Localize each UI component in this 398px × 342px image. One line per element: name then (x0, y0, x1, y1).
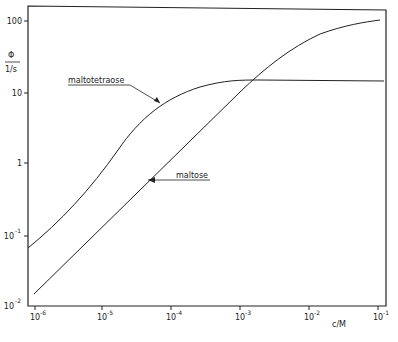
chart: 100 10 1 10 -1 10 -2 10-6 10-5 10-4 10-3… (0, 0, 398, 342)
series-maltose (34, 20, 380, 294)
y-tick-100: 100 (7, 17, 22, 26)
svg-text:10: 10 (97, 313, 107, 322)
svg-text:-5: -5 (107, 309, 113, 316)
svg-text:10: 10 (30, 313, 40, 322)
svg-text:10: 10 (373, 313, 383, 322)
svg-text:10: 10 (304, 313, 314, 322)
svg-text:10: 10 (235, 313, 245, 322)
svg-text:-1: -1 (383, 309, 389, 316)
plot-frame (28, 6, 386, 306)
y-tick-1: 1 (17, 159, 22, 168)
svg-text:-2: -2 (314, 309, 320, 316)
x-axis-label: c/M (332, 320, 346, 329)
y-tick-0.01: 10 (4, 302, 14, 311)
series-maltotetraose (28, 80, 384, 248)
svg-text:-4: -4 (176, 309, 182, 316)
y-axis-label-unit: 1/s (5, 65, 17, 74)
y-ticks: 100 10 1 10 -1 10 -2 (4, 17, 28, 311)
svg-text:-6: -6 (40, 309, 46, 316)
svg-text:-1: -1 (15, 227, 21, 234)
y-tick-0.1: 10 (4, 232, 14, 241)
svg-text:-2: -2 (15, 297, 21, 304)
svg-text:10: 10 (166, 313, 176, 322)
label-maltose: maltose (176, 171, 208, 180)
y-tick-10: 10 (12, 89, 22, 98)
label-maltotetraose: maltotetraose (68, 76, 124, 85)
y-axis-label-phi: Φ (8, 51, 14, 60)
svg-text:-3: -3 (245, 309, 251, 316)
